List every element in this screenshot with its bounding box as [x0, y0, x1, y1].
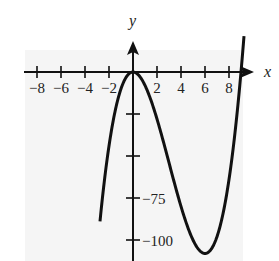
x-tick-label: 4: [177, 80, 185, 96]
x-tick-label: 2: [153, 80, 161, 96]
x-axis-label: x: [263, 63, 271, 80]
function-graph: −8−6−4−22468 x y −75 −100: [0, 0, 279, 261]
x-tick-label: −6: [53, 80, 69, 96]
x-tick-label: 8: [225, 80, 233, 96]
x-tick-label: −2: [101, 80, 117, 96]
y-axis-label: y: [127, 12, 137, 30]
y-tick-label-75: −75: [142, 191, 165, 207]
x-tick-label: −4: [77, 80, 93, 96]
y-tick-label-100: −100: [142, 233, 173, 249]
x-tick-label: −8: [29, 80, 45, 96]
x-tick-label: 6: [201, 80, 209, 96]
